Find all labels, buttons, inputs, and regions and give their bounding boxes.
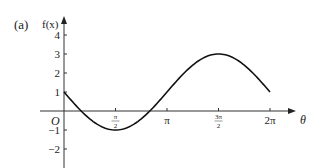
y-tick-label: 1	[55, 86, 61, 98]
panel-label: (a)	[14, 17, 28, 32]
x-axis-arrow-icon	[288, 108, 296, 114]
y-axis-arrow-icon	[61, 16, 67, 24]
x-tick-label: 2π	[264, 114, 276, 126]
origin-label: O	[51, 114, 60, 128]
x-axis-label: θ	[300, 113, 306, 127]
x-tick-label-denominator: 2	[217, 122, 221, 130]
x-tick-label-denominator: 2	[114, 122, 118, 130]
x-tick-label-numerator: π	[114, 113, 118, 121]
y-tick-label: 4	[55, 29, 61, 41]
function-graph: (a) f(x) θ 4321−1−2 π2π3π22π O	[0, 0, 312, 168]
y-tick-label: 2	[55, 67, 61, 79]
x-tick-label-numerator: 3π	[215, 113, 223, 121]
y-tick-label: −2	[48, 143, 60, 155]
x-tick-label: π	[164, 114, 170, 126]
y-tick-label: 3	[55, 48, 61, 60]
